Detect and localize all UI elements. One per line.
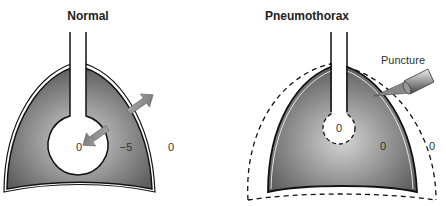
normal-panel: Normal 0 −5 0 <box>4 9 174 192</box>
atmospheric-pressure-label: 0 <box>429 140 435 152</box>
needle-icon <box>374 69 434 96</box>
panel-title-normal: Normal <box>67 9 108 23</box>
puncture-label: Puncture <box>381 54 425 66</box>
pneumothorax-diagram: Normal 0 −5 0 Pneumothorax 0 0 <box>0 0 446 206</box>
alveolar-pressure-label: 0 <box>76 141 82 153</box>
pneumothorax-panel: Pneumothorax 0 0 0 Puncture <box>248 9 436 200</box>
atmospheric-pressure-label: 0 <box>168 141 174 153</box>
panel-title-pneumothorax: Pneumothorax <box>265 9 349 23</box>
pleural-pressure-label: 0 <box>380 140 386 152</box>
pleural-pressure-label: −5 <box>120 141 133 153</box>
alveolar-pressure-label: 0 <box>336 122 342 134</box>
